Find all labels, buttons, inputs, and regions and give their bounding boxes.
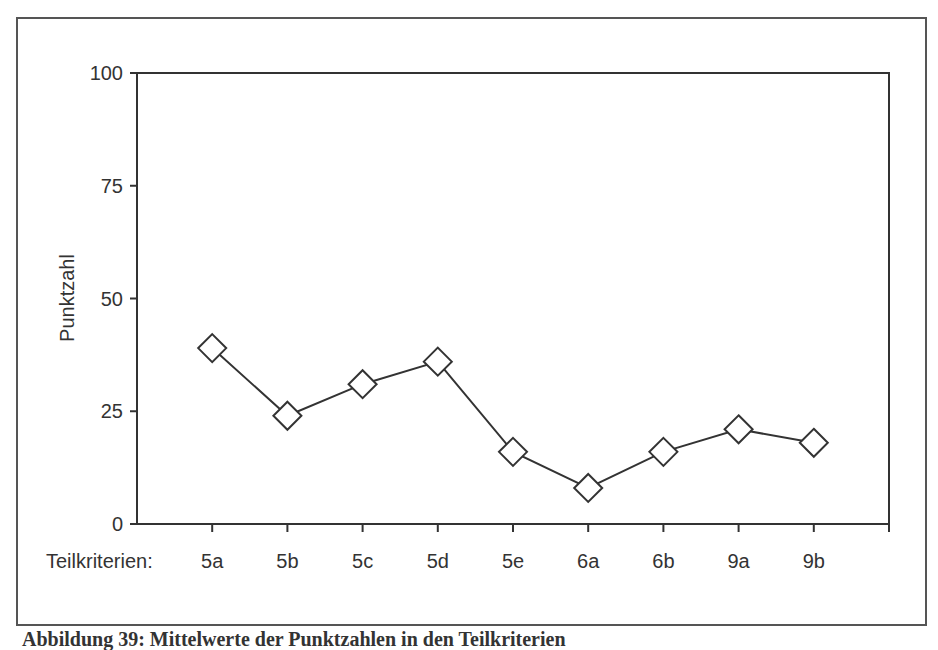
y-tick-label: 100 — [90, 62, 123, 84]
diamond-marker — [800, 429, 828, 457]
y-tick-label: 75 — [101, 175, 123, 197]
x-tick-label: 9b — [803, 550, 825, 572]
x-tick-label: 6b — [652, 550, 674, 572]
x-tick-label: 5c — [352, 550, 373, 572]
x-tick-label: 6a — [577, 550, 600, 572]
x-tick-label: 5b — [276, 550, 298, 572]
diamond-marker — [574, 474, 602, 502]
diamond-marker — [424, 348, 452, 376]
diamond-marker — [349, 370, 377, 398]
y-tick-label: 0 — [112, 513, 123, 535]
diamond-marker — [499, 438, 527, 466]
figure-caption: Abbildung 39: Mittelwerte der Punktzahle… — [22, 629, 566, 649]
y-axis-label: Punktzahl — [56, 254, 78, 342]
x-tick-label: 5e — [502, 550, 524, 572]
diamond-marker — [725, 415, 753, 443]
x-tick-label: 5a — [201, 550, 224, 572]
y-tick-label: 50 — [101, 288, 123, 310]
y-tick-label: 25 — [101, 400, 123, 422]
x-tick-label: 5d — [427, 550, 449, 572]
diamond-marker — [649, 438, 677, 466]
x-axis-label: Teilkriterien: — [46, 550, 153, 572]
x-tick-label: 9a — [727, 550, 750, 572]
